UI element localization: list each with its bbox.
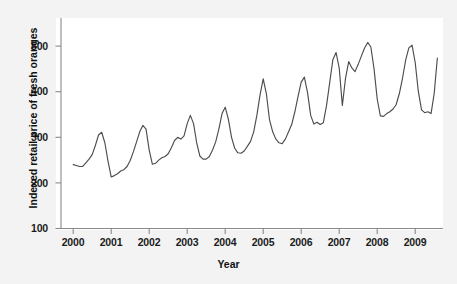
x-tick-label-2002: 2002 bbox=[129, 236, 169, 248]
x-tick-label-2004: 2004 bbox=[205, 236, 245, 248]
x-tick-label-2000: 2000 bbox=[53, 236, 93, 248]
x-tick-label-2006: 2006 bbox=[281, 236, 321, 248]
price-series-line bbox=[73, 42, 437, 177]
x-tick-label-2008: 2008 bbox=[357, 236, 397, 248]
x-tick-label-2005: 2005 bbox=[243, 236, 283, 248]
y-axis-label: Indexed retail price of fresh oranges bbox=[27, 12, 39, 224]
x-axis-label: Year bbox=[0, 258, 457, 270]
x-tick-label-2007: 2007 bbox=[319, 236, 359, 248]
x-tick-label-2001: 2001 bbox=[91, 236, 131, 248]
x-tick-label-2009: 2009 bbox=[395, 236, 435, 248]
x-tick-label-2003: 2003 bbox=[167, 236, 207, 248]
y-axis-ticks bbox=[56, 46, 62, 228]
x-axis-ticks bbox=[73, 229, 415, 235]
chart-figure: 500 400 300 200 100 2000 2001 2002 2003 … bbox=[0, 0, 457, 284]
